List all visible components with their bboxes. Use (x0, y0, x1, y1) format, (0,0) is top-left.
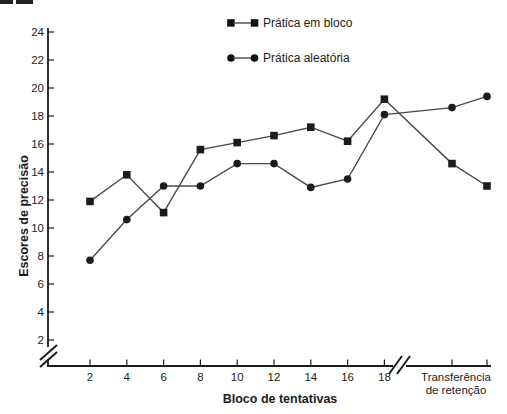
data-point-circle (307, 184, 315, 192)
legend-item-random-practice: Prática aleatória (227, 51, 350, 65)
x-tick-label: 18 (378, 371, 391, 383)
y-tick-label: 18 (31, 110, 44, 122)
data-point-square (483, 182, 491, 190)
y-tick-label: 8 (38, 250, 44, 262)
x-tick-label: 2 (87, 371, 93, 383)
data-point-circle (123, 216, 131, 224)
x-tick-label: 10 (231, 371, 244, 383)
data-point-circle (381, 111, 389, 119)
data-point-circle (483, 93, 491, 101)
data-point-square (233, 139, 241, 147)
data-point-circle (270, 160, 278, 168)
x-axis-title: Bloco de tentativas (223, 392, 338, 406)
legend-label-blocked: Prática em bloco (263, 16, 353, 30)
data-point-square (86, 198, 94, 206)
data-point-square (381, 95, 389, 103)
data-point-square (448, 160, 456, 168)
y-axis-title: Escores de precisão (17, 155, 31, 277)
artifact-mark (16, 0, 33, 4)
x-tick-label: 14 (304, 371, 317, 383)
y-tick-label: 4 (38, 306, 45, 318)
retention-axis-label-line-1: Transferência (421, 371, 491, 383)
y-tick-label: 6 (38, 278, 44, 290)
data-point-circle (233, 160, 241, 168)
data-point-square (307, 123, 315, 131)
data-point-square (160, 209, 168, 217)
y-tick-label: 16 (31, 138, 44, 150)
data-point-square (197, 146, 205, 154)
x-tick-label: 12 (268, 371, 281, 383)
y-tick-label: 24 (31, 26, 44, 38)
data-point-circle (448, 104, 456, 112)
x-tick-label: 16 (341, 371, 354, 383)
scanned-figure-page: 2468101214161820222424681012141618 Escor… (0, 0, 507, 414)
data-point-square (344, 137, 352, 145)
x-tick-label: 8 (197, 371, 203, 383)
data-point-circle (86, 256, 94, 264)
y-tick-label: 14 (31, 166, 44, 178)
y-tick-label: 22 (31, 54, 44, 66)
series-line-blocked-practice (90, 99, 487, 212)
legend-item-blocked-practice: Prática em bloco (227, 16, 352, 30)
data-point-square (123, 171, 131, 179)
data-point-circle (160, 182, 168, 190)
y-tick-label: 20 (31, 82, 44, 94)
circle-marker-icon (251, 54, 259, 62)
retention-axis-label-line-2: de retenção (426, 384, 487, 396)
data-point-square (270, 132, 278, 140)
y-tick-label: 10 (31, 222, 44, 234)
axis-lines (47, 28, 491, 367)
line-chart: 2468101214161820222424681012141618 Escor… (0, 0, 507, 414)
plot-area: 2468101214161820222424681012141618 (31, 26, 491, 383)
x-tick-label: 6 (160, 371, 166, 383)
data-point-circle (197, 182, 205, 190)
data-point-circle (344, 175, 352, 183)
axis-break-marks (40, 345, 410, 374)
x-tick-label: 4 (124, 371, 131, 383)
cropped-page-number-artifact (0, 0, 33, 4)
legend-label-random: Prática aleatória (263, 51, 350, 65)
artifact-mark (0, 0, 13, 4)
y-tick-label: 12 (31, 194, 44, 206)
legend: Prática em bloco Prática aleatória (227, 16, 352, 65)
y-tick-label: 2 (38, 334, 44, 346)
square-marker-icon (251, 19, 258, 27)
series-line-random-practice (90, 96, 487, 260)
